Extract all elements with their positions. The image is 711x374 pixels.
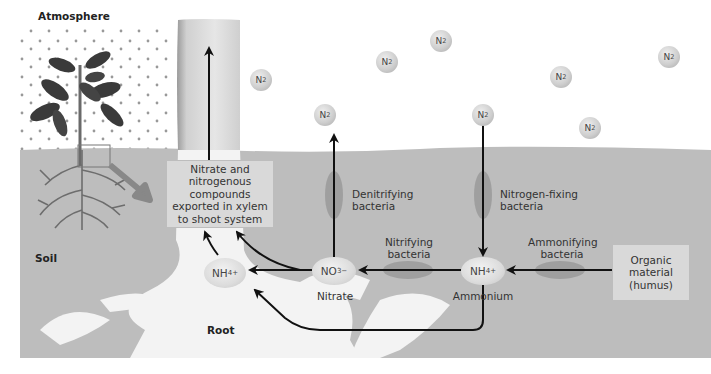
root-label: Root: [207, 324, 235, 336]
diagram-canvas: [0, 0, 711, 374]
nitrogen-cycle-diagram: Atmosphere Soil Root Nitrate and nitroge…: [0, 0, 711, 374]
n2-molecule: N2: [376, 51, 398, 73]
nitrate-ion: NO3−: [312, 257, 356, 285]
ammonifying-bacteria-label: Ammonifying bacteria: [528, 236, 596, 260]
nitrogen-fixing-bacteria-label: Nitrogen-fixing bacteria: [500, 188, 578, 212]
n2-molecule: N2: [250, 69, 272, 91]
nitrifying-bacteria-label: Nitrifying bacteria: [383, 236, 435, 260]
denitrifying-bacteria-label: Denitrifying bacteria: [352, 188, 413, 212]
n2-molecule: N2: [314, 104, 336, 126]
root-ammonium-ion: NH4+: [204, 258, 246, 288]
n2-molecule: N2: [579, 117, 601, 139]
atmosphere-label: Atmosphere: [38, 10, 110, 22]
n2-molecule: N2: [550, 66, 572, 88]
ammonium-label: Ammonium: [452, 290, 514, 302]
soil-label: Soil: [35, 252, 57, 264]
organic-material-box: Organic material (humus): [612, 244, 690, 301]
n2-molecule: N2: [430, 30, 452, 52]
nitrate-label: Nitrate: [313, 290, 357, 302]
n2-molecule: N2: [472, 104, 494, 126]
n2-molecule: N2: [658, 46, 680, 68]
ammonium-ion: NH4+: [461, 257, 505, 285]
xylem-export-box: Nitrate and nitrogenous compounds export…: [166, 160, 274, 228]
